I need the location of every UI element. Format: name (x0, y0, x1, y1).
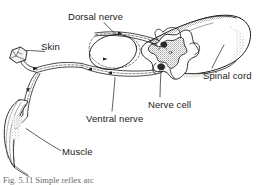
label-spinal-cord: Spinal cord (203, 70, 252, 81)
label-skin: Skin (41, 41, 60, 52)
label-muscle: Muscle (62, 146, 93, 157)
leader-dorsal-nerve (104, 23, 117, 35)
muscle-body (4, 100, 29, 177)
leader-spinal-cord (212, 45, 224, 68)
spinal-cord-cut-face (141, 27, 199, 79)
peripheral-nerve-trunk (36, 62, 82, 72)
leader-ventral-nerve (112, 78, 115, 112)
leader-nerve-cell (160, 72, 161, 98)
label-nerve-cell: Nerve cell (148, 99, 191, 110)
reflex-arc-figure: Dorsal nerve Skin Spinal cord Nerve cell… (0, 0, 262, 185)
leader-muscle (26, 129, 61, 151)
label-ventral-nerve: Ventral nerve (86, 113, 143, 124)
reflex-arc-illustration (0, 0, 262, 185)
ventral-nerve-root (82, 64, 156, 77)
figure-caption: Fig. 5.11 Simple reflex arc (3, 175, 94, 185)
label-dorsal-nerve: Dorsal nerve (68, 11, 123, 22)
